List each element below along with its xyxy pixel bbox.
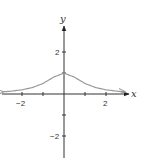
y-axis-label: y (59, 13, 66, 24)
x-tick-label-neg2: −2 (16, 99, 26, 108)
y-tick-label-neg2: −2 (50, 132, 60, 141)
x-axis-label: x (131, 88, 137, 99)
x-tick-label-2: 2 (103, 99, 108, 108)
y-tick-label-2: 2 (55, 48, 60, 57)
function-graph: x y −2 2 2 −2 (0, 0, 146, 163)
